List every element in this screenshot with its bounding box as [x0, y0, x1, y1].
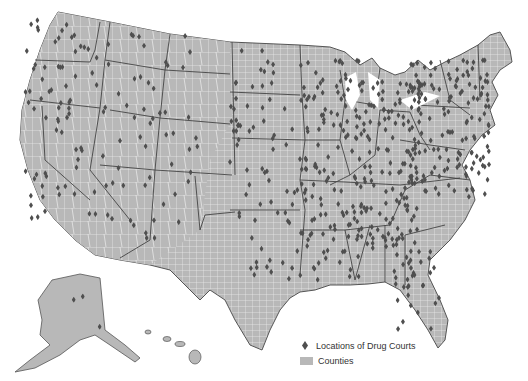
- alaska: [15, 274, 140, 372]
- legend-label: Counties: [318, 356, 354, 366]
- county-swatch-icon: [300, 357, 313, 365]
- hawaii: [145, 330, 201, 364]
- us-drug-courts-map: [0, 0, 528, 381]
- map-legend: Locations of Drug Courts Counties: [300, 338, 416, 368]
- legend-label: Locations of Drug Courts: [316, 341, 416, 351]
- diamond-marker-icon: [300, 341, 310, 350]
- legend-item-drug-courts: Locations of Drug Courts: [300, 338, 416, 353]
- legend-item-counties: Counties: [300, 353, 416, 368]
